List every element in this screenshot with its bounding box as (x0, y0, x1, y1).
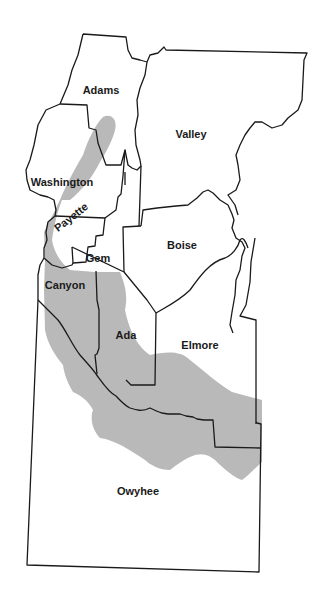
county-label-ada: Ada (116, 329, 137, 341)
boundary-boise (141, 190, 245, 333)
county-label-owyhee: Owyhee (117, 485, 159, 497)
boundary-valley (147, 47, 307, 215)
boundary-gem-west (123, 226, 141, 272)
county-label-elmore: Elmore (181, 339, 218, 351)
county-label-gem: Gem (86, 252, 110, 264)
county-label-valley: Valley (175, 128, 206, 140)
county-label-boise: Boise (167, 239, 197, 251)
county-label-washington: Washington (31, 176, 94, 188)
county-map (0, 0, 322, 605)
boundary-adams-valley (125, 166, 141, 226)
boundary-canyon-west (38, 258, 44, 300)
shaded-region (44, 116, 262, 480)
county-label-canyon: Canyon (45, 279, 85, 291)
county-label-adams: Adams (83, 84, 120, 96)
